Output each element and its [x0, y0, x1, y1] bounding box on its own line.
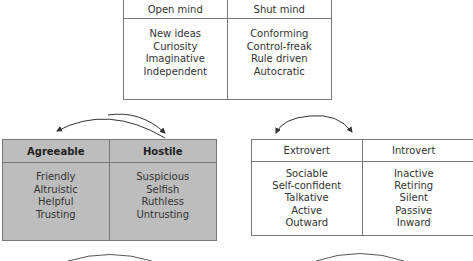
traits-agreeable: Friendly Altruistic Helpful Trusting — [3, 163, 110, 240]
trait: Retiring — [363, 180, 466, 192]
trait: Ruthless — [110, 196, 217, 209]
trait: Autocratic — [228, 66, 332, 79]
trait: Silent — [363, 192, 466, 204]
trait: Inactive — [363, 168, 466, 180]
trait: Helpful — [3, 196, 109, 209]
traits-extrovert: Sociable Self-confident Talkative Active… — [252, 162, 363, 235]
trait: Trusting — [3, 209, 109, 222]
header-open-mind: Open mind — [124, 0, 228, 19]
trait: Outward — [252, 217, 362, 229]
header-hostile: Hostile — [110, 140, 217, 163]
trait-box-openness: Open mind Shut mind New ideas Curiosity … — [123, 0, 332, 100]
trait: Conforming — [228, 28, 332, 41]
partial-curve-bottom-left — [68, 255, 152, 261]
trait-box-agreeableness: Agreeable Hostile Friendly Altruistic He… — [2, 139, 217, 241]
header-shut-mind: Shut mind — [228, 0, 332, 19]
trait: Friendly — [3, 171, 109, 184]
trait: Selfish — [110, 184, 217, 197]
trait: Control-freak — [228, 41, 332, 54]
traits-hostile: Suspicious Selfish Ruthless Untrusting — [110, 163, 217, 240]
trait: Inward — [363, 217, 466, 229]
trait: Suspicious — [110, 171, 217, 184]
partial-curve-bottom-right — [316, 254, 404, 261]
traits-introvert: Inactive Retiring Silent Passive Inward — [363, 162, 473, 235]
header-introvert: Introvert — [363, 140, 473, 162]
header-extrovert: Extrovert — [252, 140, 363, 162]
trait: Rule driven — [228, 53, 332, 66]
traits-open-mind: New ideas Curiosity Imaginative Independ… — [124, 19, 228, 99]
trait: Curiosity — [124, 41, 227, 54]
trait: Altruistic — [3, 184, 109, 197]
double-arrow-extrovert-introvert — [306, 116, 345, 131]
trait: Untrusting — [110, 209, 217, 222]
trait: Independent — [124, 66, 227, 79]
trait: New ideas — [124, 28, 227, 41]
trait: Imaginative — [124, 53, 227, 66]
trait: Self-confident — [252, 180, 362, 192]
trait: Talkative — [252, 192, 362, 204]
trait: Passive — [363, 205, 466, 217]
header-agreeable: Agreeable — [3, 140, 110, 163]
trait-box-extraversion: Extrovert Introvert Sociable Self-confid… — [251, 139, 473, 236]
trait: Active — [252, 205, 362, 217]
trait: Sociable — [252, 168, 362, 180]
traits-shut-mind: Conforming Control-freak Rule driven Aut… — [228, 19, 332, 99]
